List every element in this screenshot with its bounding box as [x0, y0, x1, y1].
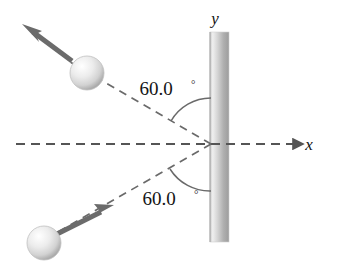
velocity-arrow-incoming — [53, 204, 114, 236]
angle-label-lower-value: 60.0 — [142, 188, 175, 209]
angle-label-lower-degree: ° — [194, 188, 198, 200]
x-axis-label: x — [304, 135, 313, 154]
angle-label-upper-value: 60.0 — [139, 78, 172, 99]
physics-diagram-reflection: x y 60.0 ° 60.0 ° — [0, 0, 341, 273]
vertical-wall — [210, 32, 229, 242]
velocity-arrow-outgoing-shaft — [33, 32, 72, 61]
angle-arc-upper — [171, 98, 211, 121]
velocity-arrow-incoming-shaft — [53, 212, 101, 236]
ball-incoming — [27, 226, 61, 260]
diagram-canvas: x y 60.0 ° 60.0 ° — [0, 0, 341, 273]
wall-body — [210, 32, 229, 242]
angle-label-upper: 60.0 ° — [139, 78, 195, 99]
angle-arc-lower — [170, 169, 211, 191]
angle-label-upper-degree: ° — [191, 78, 195, 90]
ray-incoming-dashed — [58, 144, 211, 232]
angle-label-lower: 60.0 ° — [142, 188, 198, 209]
ball-outgoing — [70, 56, 104, 90]
velocity-arrow-outgoing — [22, 24, 72, 61]
ball-outgoing-body — [70, 56, 104, 90]
y-axis-label: y — [209, 9, 219, 28]
ball-incoming-body — [27, 226, 61, 260]
